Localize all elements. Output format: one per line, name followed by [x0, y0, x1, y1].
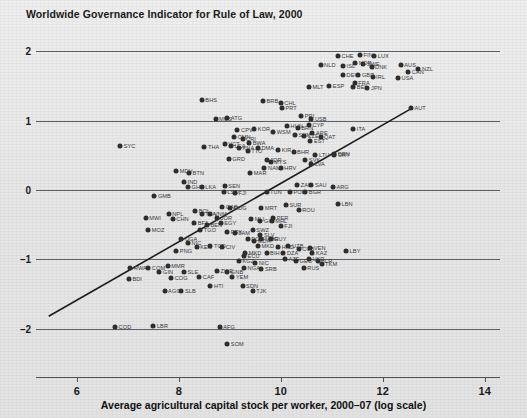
- data-point-label: ATG: [231, 115, 242, 121]
- data-point: [357, 52, 362, 57]
- data-point: [240, 136, 245, 141]
- x-tick-label-14: 14: [479, 385, 491, 397]
- data-point-label: CYP: [312, 122, 324, 128]
- data-point: [169, 275, 174, 280]
- data-point: [260, 98, 265, 103]
- data-point: [213, 116, 218, 121]
- data-point: [361, 61, 366, 66]
- data-point: [291, 149, 296, 154]
- data-point-label: AFG: [223, 324, 235, 330]
- data-point-label: BDI: [132, 276, 142, 282]
- data-point: [259, 206, 264, 211]
- data-point-label: USA: [402, 75, 414, 81]
- data-point: [341, 72, 346, 77]
- data-point: [199, 97, 204, 102]
- data-point: [231, 134, 236, 139]
- data-point: [143, 215, 148, 220]
- data-point-label: MWI: [149, 215, 161, 221]
- data-point-label: COD: [119, 324, 132, 330]
- data-point-label: SLB: [185, 288, 196, 294]
- data-point: [264, 250, 269, 255]
- data-point: [208, 243, 213, 248]
- data-point: [215, 268, 220, 273]
- data-point: [228, 144, 233, 149]
- data-point: [278, 165, 283, 170]
- data-point: [335, 54, 340, 59]
- data-point: [296, 247, 301, 252]
- data-point-label: BRN: [301, 125, 313, 131]
- data-point: [166, 211, 171, 216]
- data-point-label: CAN: [412, 69, 424, 75]
- y-tick-label-2: 2: [25, 46, 31, 57]
- data-point: [202, 145, 207, 150]
- plot-area: 210–1–2 CHEFINLUXNORSWEDNKISLNLDAUSNZLCA…: [36, 34, 500, 360]
- data-point: [208, 283, 213, 288]
- data-point: [303, 190, 308, 195]
- data-point: [310, 250, 315, 255]
- data-point: [301, 265, 306, 270]
- data-point-label: CHE: [342, 53, 354, 59]
- data-point: [179, 236, 184, 241]
- x-tick-mark-6: [77, 377, 78, 382]
- data-point: [281, 250, 286, 255]
- data-point: [230, 274, 235, 279]
- data-point-label: MOZ: [152, 227, 165, 233]
- x-axis-line: [36, 377, 500, 378]
- data-point: [271, 129, 276, 134]
- data-point-label: BTN: [193, 170, 205, 176]
- data-point: [179, 289, 184, 294]
- data-point: [279, 105, 284, 110]
- data-point-label: NLD: [324, 62, 336, 68]
- y-tick-label-0: 0: [25, 185, 31, 196]
- data-point-label: PRT: [285, 105, 296, 111]
- gridline-y-2: [36, 51, 500, 52]
- data-point: [248, 171, 253, 176]
- data-point: [221, 189, 226, 194]
- data-point: [303, 157, 308, 162]
- data-point-label: CIV: [226, 244, 236, 250]
- data-point-label: WSM: [277, 129, 291, 135]
- data-point-label: EGY: [224, 220, 236, 226]
- data-point-label: URY: [338, 152, 350, 158]
- data-point-label: CPV: [241, 127, 253, 133]
- data-point-label: SAU: [315, 182, 327, 188]
- data-point-label: MDG: [233, 205, 246, 211]
- data-point: [222, 142, 227, 147]
- data-point-label: ARG: [336, 184, 348, 190]
- data-point: [293, 133, 298, 138]
- x-tick-mark-10: [281, 377, 282, 382]
- data-point: [255, 243, 260, 248]
- data-point: [255, 145, 260, 150]
- data-point: [174, 168, 179, 173]
- data-point: [227, 206, 232, 211]
- data-point: [217, 325, 222, 330]
- data-point-label: NIC: [259, 260, 269, 266]
- data-point-label: THA: [208, 144, 220, 150]
- data-point-label: GIN: [163, 269, 173, 275]
- data-point: [351, 85, 356, 90]
- data-point: [162, 289, 167, 294]
- data-point-label: BHS: [205, 97, 217, 103]
- data-point-label: MLT: [312, 84, 323, 90]
- data-point-label: MDV: [180, 168, 193, 174]
- data-point: [199, 211, 204, 216]
- data-point: [341, 63, 346, 68]
- data-point: [245, 236, 250, 241]
- data-point: [245, 149, 250, 154]
- data-point-label: EST: [314, 138, 325, 144]
- data-point: [225, 342, 230, 347]
- data-point: [198, 228, 203, 233]
- data-point: [294, 258, 299, 263]
- data-point-label: LUX: [378, 53, 389, 59]
- data-point: [327, 84, 332, 89]
- data-point: [157, 269, 162, 274]
- data-point-label: MRT: [265, 205, 277, 211]
- data-point-label: DMA: [261, 145, 274, 151]
- data-point: [232, 190, 237, 195]
- data-point-label: TGO: [204, 227, 216, 233]
- data-point: [332, 153, 337, 158]
- data-point-label: LBN: [342, 201, 353, 207]
- data-point: [396, 75, 401, 80]
- data-point-label: MKD: [261, 243, 274, 249]
- data-point: [199, 185, 204, 190]
